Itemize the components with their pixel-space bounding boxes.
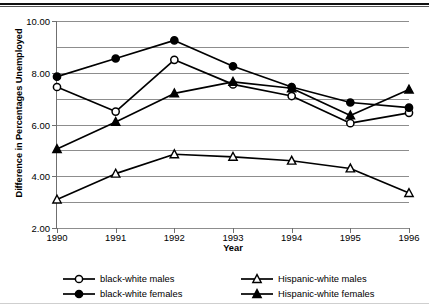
y-axis-title: Difference in Percentages Unemployed — [14, 8, 24, 218]
data-point — [405, 104, 412, 111]
y-tick-label: 6.00 — [14, 119, 50, 130]
chart-legend: black-white malesHispanic-white malesbla… — [62, 271, 422, 302]
legend-item[interactable]: Hispanic-white males — [240, 273, 422, 285]
data-point — [405, 85, 413, 93]
legend-item[interactable]: Hispanic-white females — [240, 288, 422, 300]
y-tick-label: 10.00 — [14, 16, 50, 27]
x-tick-label: 1995 — [340, 232, 361, 243]
legend-label: black-white females — [100, 288, 182, 299]
data-point — [229, 63, 236, 70]
filled-circle-icon — [62, 288, 96, 300]
series-hispanic-white-males — [53, 150, 413, 203]
x-tick-label: 1993 — [222, 232, 243, 243]
series-line — [57, 154, 409, 199]
data-point — [347, 120, 354, 127]
x-tick-label: 1992 — [164, 232, 185, 243]
legend-item[interactable]: black-white females — [62, 288, 240, 300]
data-point — [288, 92, 295, 99]
y-tick-label: 8.00 — [14, 67, 50, 78]
open-circle-icon — [62, 273, 96, 285]
figure-bottom-rule — [0, 303, 429, 304]
filled-triangle-icon — [240, 288, 274, 300]
x-tick-label: 1996 — [398, 232, 419, 243]
data-point — [53, 83, 60, 90]
x-tick-label: 1990 — [46, 232, 67, 243]
y-tick-label: 2.00 — [14, 223, 50, 234]
x-tick-label: 1991 — [105, 232, 126, 243]
figure-top-rule-secondary — [0, 6, 429, 7]
plot-area: 2.004.006.008.0010.00 199019911992199319… — [57, 21, 409, 228]
data-point — [171, 56, 178, 63]
data-point — [171, 37, 178, 44]
data-point — [53, 73, 60, 80]
legend-item[interactable]: black-white males — [62, 273, 240, 285]
x-axis-title: Year — [57, 243, 409, 253]
data-point — [112, 55, 119, 62]
series-line — [57, 40, 409, 107]
legend-label: Hispanic-white females — [278, 288, 374, 299]
y-tick-label: 4.00 — [14, 171, 50, 182]
series-layer — [57, 21, 409, 228]
data-point — [347, 99, 354, 106]
series-black-white-females — [53, 37, 412, 111]
data-point — [112, 108, 119, 115]
x-tick-label: 1994 — [281, 232, 302, 243]
series-line — [57, 82, 409, 149]
figure-container: Difference in Percentages Unemployed 2.0… — [0, 0, 429, 306]
legend-label: Hispanic-white males — [278, 273, 367, 284]
open-triangle-icon — [240, 273, 274, 285]
legend-label: black-white males — [100, 273, 175, 284]
figure-top-rule — [0, 3, 429, 5]
